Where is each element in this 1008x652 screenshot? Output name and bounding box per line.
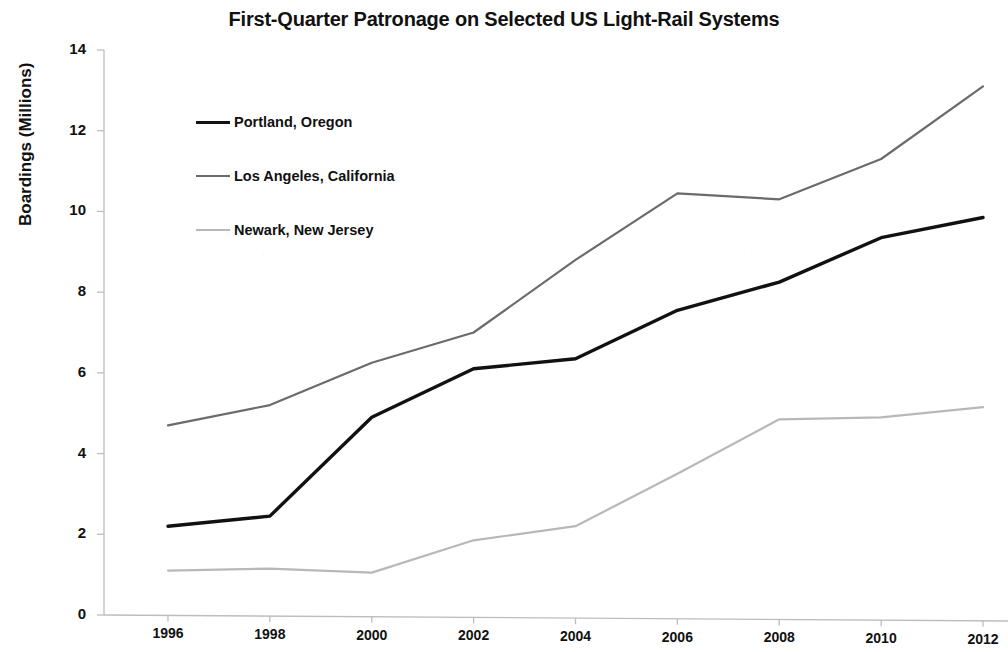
legend-label: Newark, New Jersey: [234, 222, 373, 238]
legend-entry[interactable]: Portland, Oregon: [196, 114, 352, 130]
chart-container: First-Quarter Patronage on Selected US L…: [0, 0, 1008, 652]
legend-color-swatch: [196, 121, 230, 124]
legend-entry[interactable]: Los Angeles, California: [196, 168, 395, 184]
series-line-2: [168, 407, 983, 572]
legend-color-swatch: [196, 229, 230, 231]
plot-area: [0, 0, 1008, 652]
series-line-1: [168, 86, 983, 425]
legend-label: Los Angeles, California: [234, 168, 395, 184]
legend-label: Portland, Oregon: [234, 114, 352, 130]
x-axis-line: [104, 615, 1008, 621]
legend-entry[interactable]: Newark, New Jersey: [196, 222, 373, 238]
legend-color-swatch: [196, 175, 230, 177]
series-line-0: [168, 218, 983, 527]
